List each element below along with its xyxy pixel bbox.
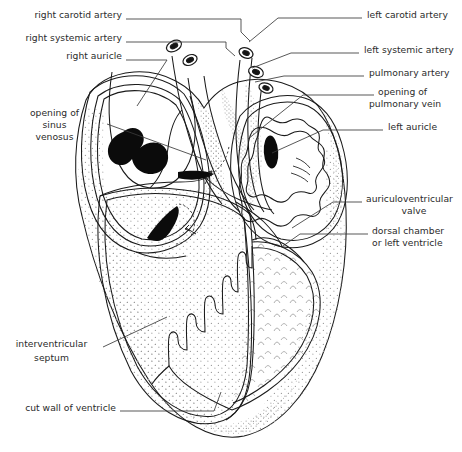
label-dorsal-chamber-line2: or left ventricle bbox=[372, 237, 462, 248]
label-interventricular-septum-line1: interventricular bbox=[4, 338, 99, 349]
label-auriculoventricular-valve-line1: auriculoventricular bbox=[366, 193, 462, 204]
label-opening-of-sinus-venosus-line1: opening of bbox=[6, 107, 103, 118]
label-pulmonary-artery: pulmonary artery bbox=[369, 67, 462, 78]
label-left-systemic-artery: left systemic artery bbox=[364, 44, 462, 55]
label-left-carotid-artery: left carotid artery bbox=[367, 9, 462, 20]
label-cut-wall-of-ventricle: cut wall of ventricle bbox=[0, 402, 116, 413]
label-opening-of-sinus-venosus-line3: venosus bbox=[6, 131, 103, 142]
label-interventricular-septum-line2: septum bbox=[4, 352, 99, 363]
heart-anatomy-figure: right carotid artery right systemic arte… bbox=[0, 0, 462, 452]
label-right-systemic-artery: right systemic artery bbox=[0, 32, 122, 43]
label-right-carotid-artery: right carotid artery bbox=[0, 9, 122, 20]
label-auriculoventricular-valve-line2: valve bbox=[366, 205, 462, 216]
label-opening-of-pulmonary-vein-line2: pulmonary vein bbox=[369, 98, 462, 109]
label-left-auricle: left auricle bbox=[388, 121, 462, 132]
label-right-auricle: right auricle bbox=[0, 50, 122, 61]
label-opening-of-pulmonary-vein-line1: opening of bbox=[378, 86, 462, 97]
label-dorsal-chamber-line1: dorsal chamber bbox=[372, 225, 462, 236]
label-opening-of-sinus-venosus-line2: sinus bbox=[6, 119, 103, 130]
